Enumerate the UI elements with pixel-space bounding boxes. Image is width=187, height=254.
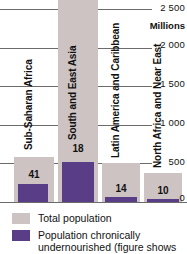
y-tick-2000: 2 000 [160,39,185,50]
legend-item-undernourished: Population chronically undernourished (f… [12,229,187,254]
bar-group-sub-saharan-africa: 41 Sub-Saharan Africa [14,157,54,202]
bar-group-latin-america-and-caribbean: 14 Latin America and Caribbean [102,163,140,202]
bar-undernourished-north-africa-and-near-east [147,199,179,202]
legend-label-total-population: Total population [38,212,112,225]
y-axis-unit-label: Millions [150,20,185,31]
bar-group-south-and-east-asia: 18 South and East Asia [58,0,98,202]
legend-swatch-total-population [12,213,30,224]
bar-value-latin-america-and-caribbean: 14 [102,183,140,194]
bar-value-north-africa-and-near-east: 10 [144,185,182,196]
category-label-sub-saharan-africa: Sub-Saharan Africa [23,59,34,150]
y-tick-500: 500 [169,156,185,167]
legend-item-total-population: Total population [12,212,187,225]
category-label-north-africa-and-near-east: North Africa and Near East [152,44,163,168]
y-tick-0: 0 [180,192,185,203]
bar-undernourished-sub-saharan-africa [18,184,48,202]
y-tick-1000: 1 000 [160,117,185,128]
bar-undernourished-latin-america-and-caribbean [105,197,137,202]
bar-chart: 41 Sub-Saharan Africa 18 South and East … [0,0,187,254]
axis-baseline [0,202,187,203]
legend-label-undernourished: Population chronically undernourished (f… [38,229,187,254]
bar-value-south-and-east-asia: 18 [58,143,98,154]
plot-area: 41 Sub-Saharan Africa 18 South and East … [0,0,187,203]
y-tick-1500: 1 500 [160,78,185,89]
bar-undernourished-south-and-east-asia [62,162,94,202]
category-label-south-and-east-asia: South and East Asia [67,46,78,140]
legend-swatch-undernourished [12,230,30,241]
y-tick-2500: 2 500 [160,2,185,13]
category-label-latin-america-and-caribbean: Latin America and Caribbean [110,23,121,158]
bar-value-sub-saharan-africa: 41 [14,169,54,180]
legend: Total population Population chronically … [12,212,187,254]
bar-group-north-africa-and-near-east: 10 North Africa and Near East [144,173,182,202]
